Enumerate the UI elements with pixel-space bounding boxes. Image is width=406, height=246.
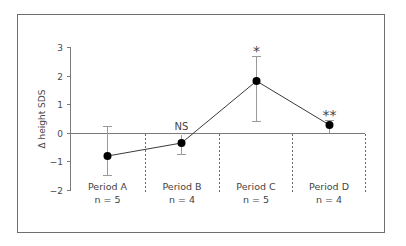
sample-size-label: n = 4 — [316, 194, 342, 205]
category-label: Period A — [88, 181, 128, 192]
y-axis-label: Δ height SDS — [37, 89, 47, 148]
data-point-c — [253, 77, 261, 85]
data-points — [104, 77, 334, 160]
data-point-a — [104, 152, 112, 160]
significance-label-b: NS — [175, 121, 189, 132]
y-tick-labels: 3 2 1 0 −1 −2 — [50, 43, 64, 196]
sample-size-label: n = 4 — [169, 194, 195, 205]
tick-label: 1 — [57, 100, 63, 110]
category-label: Period C — [236, 181, 276, 192]
data-line — [108, 81, 330, 156]
sample-size-label: n = 5 — [243, 194, 269, 205]
category-label: Period B — [162, 181, 201, 192]
y-ticks — [67, 48, 71, 191]
chart: 3 2 1 0 −1 −2 Δ height SDS NS — [0, 0, 406, 246]
sample-size-label: n = 5 — [94, 194, 120, 205]
tick-label: 2 — [57, 72, 63, 82]
category-labels: Period A n = 5 Period B n = 4 Period C n… — [88, 181, 349, 205]
tick-label: 0 — [57, 129, 63, 139]
category-label: Period D — [309, 181, 349, 192]
significance-label-c: * — [253, 43, 260, 59]
tick-label: −2 — [50, 186, 63, 196]
significance-label-d: ** — [323, 107, 337, 123]
tick-label: 3 — [57, 43, 63, 53]
tick-label: −1 — [50, 157, 63, 167]
data-point-b — [178, 139, 186, 147]
error-bars — [103, 57, 334, 176]
